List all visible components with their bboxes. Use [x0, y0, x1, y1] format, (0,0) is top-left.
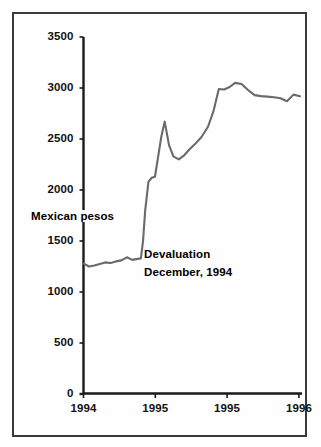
y-tick-label-500: 500 [24, 336, 74, 348]
y-tick-label-0: 0 [24, 387, 74, 399]
y-tick-label-1000: 1000 [24, 285, 74, 297]
y-tick-label-2500: 2500 [24, 132, 74, 144]
x-tick-label-0: 1994 [59, 402, 109, 414]
devaluation-annotation-line2: December, 1994 [144, 266, 232, 278]
y-axis-title: Mexican pesos [30, 210, 115, 222]
x-tick-label-1: 1995 [130, 402, 180, 414]
devaluation-annotation-line1: Devaluation [144, 248, 210, 260]
y-tick-label-3500: 3500 [24, 30, 74, 42]
data-series-line [84, 83, 301, 267]
line-chart-plot [0, 0, 321, 447]
x-tick-label-2: 1995 [202, 402, 252, 414]
y-tick-label-3000: 3000 [24, 81, 74, 93]
y-tick-label-2000: 2000 [24, 183, 74, 195]
x-tick-label-3: 1996 [274, 402, 321, 414]
y-tick-label-1500: 1500 [24, 234, 74, 246]
